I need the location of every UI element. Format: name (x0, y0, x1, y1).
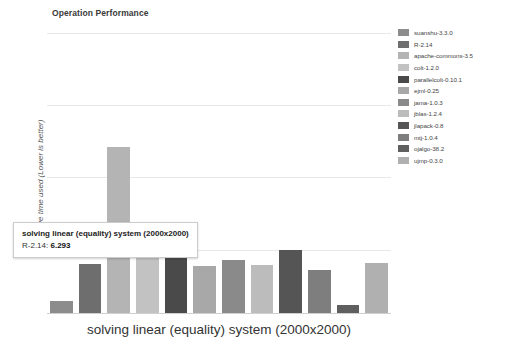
bar[interactable] (337, 305, 360, 313)
chart-title: Operation Performance (52, 8, 149, 18)
legend-swatch-icon (398, 99, 409, 106)
bar[interactable] (279, 250, 302, 313)
legend-swatch-icon (398, 157, 409, 164)
legend-swatch-icon (398, 145, 409, 152)
chart-tooltip: solving linear (equality) system (2000x2… (13, 222, 198, 258)
legend-item-label: apache-commons-3.5 (414, 52, 473, 59)
legend-swatch-icon (398, 122, 409, 129)
legend-item-label: parallelcolt-0.10.1 (414, 76, 462, 83)
legend-item[interactable]: jama-1.0.3 (398, 97, 506, 109)
tooltip-series-label: R-2.14: (22, 241, 48, 250)
bar[interactable] (251, 265, 274, 313)
legend-item-label: mtj-1.0.4 (414, 134, 438, 141)
bar[interactable] (50, 301, 73, 313)
legend-item[interactable]: suanshu-3.3.0 (398, 27, 506, 39)
legend-swatch-icon (398, 76, 409, 83)
legend-item-label: ojalgo-38.2 (414, 145, 444, 152)
tooltip-title: solving linear (equality) system (2000x2… (22, 228, 189, 239)
legend-item-label: colt-1.2.0 (414, 64, 439, 71)
legend-item[interactable]: ejml-0.25 (398, 85, 506, 97)
bar[interactable] (165, 253, 188, 313)
bar[interactable] (79, 264, 102, 313)
legend-item[interactable]: ujmp-0.3.0 (398, 155, 506, 167)
chart-legend: suanshu-3.3.0R-2.14apache-commons-3.5col… (398, 27, 506, 166)
bar[interactable] (193, 266, 216, 313)
legend-swatch-icon (398, 87, 409, 94)
tooltip-value: 6.293 (50, 241, 70, 250)
legend-swatch-icon (398, 52, 409, 59)
legend-swatch-icon (398, 41, 409, 48)
legend-item-label: ujmp-0.3.0 (414, 157, 443, 164)
legend-swatch-icon (398, 29, 409, 36)
x-axis-label: solving linear (equality) system (2000x2… (47, 322, 391, 337)
legend-item[interactable]: R-2.14 (398, 39, 506, 51)
bar[interactable] (365, 263, 388, 313)
chart-container: Operation Performance Relative time used… (0, 0, 508, 347)
legend-item-label: jblas-1.2.4 (414, 110, 442, 117)
legend-item-label: jlapack-0.8 (414, 122, 443, 129)
bar-group (47, 31, 391, 313)
bar[interactable] (308, 270, 331, 313)
legend-item[interactable]: ojalgo-38.2 (398, 143, 506, 155)
legend-item[interactable]: colt-1.2.0 (398, 62, 506, 74)
legend-swatch-icon (398, 64, 409, 71)
legend-item[interactable]: jlapack-0.8 (398, 120, 506, 132)
x-axis-line (47, 313, 391, 315)
legend-item-label: suanshu-3.3.0 (414, 29, 453, 36)
legend-item[interactable]: parallelcolt-0.10.1 (398, 73, 506, 85)
legend-swatch-icon (398, 110, 409, 117)
legend-item[interactable]: mtj-1.0.4 (398, 131, 506, 143)
legend-item[interactable]: apache-commons-3.5 (398, 50, 506, 62)
plot-area (47, 30, 391, 314)
bar[interactable] (136, 253, 159, 313)
legend-item[interactable]: jblas-1.2.4 (398, 108, 506, 120)
tooltip-row: R-2.14: 6.293 (22, 240, 189, 251)
legend-swatch-icon (398, 134, 409, 141)
legend-item-label: R-2.14 (414, 41, 432, 48)
legend-item-label: jama-1.0.3 (414, 99, 443, 106)
bar[interactable] (222, 260, 245, 313)
legend-item-label: ejml-0.25 (414, 87, 439, 94)
